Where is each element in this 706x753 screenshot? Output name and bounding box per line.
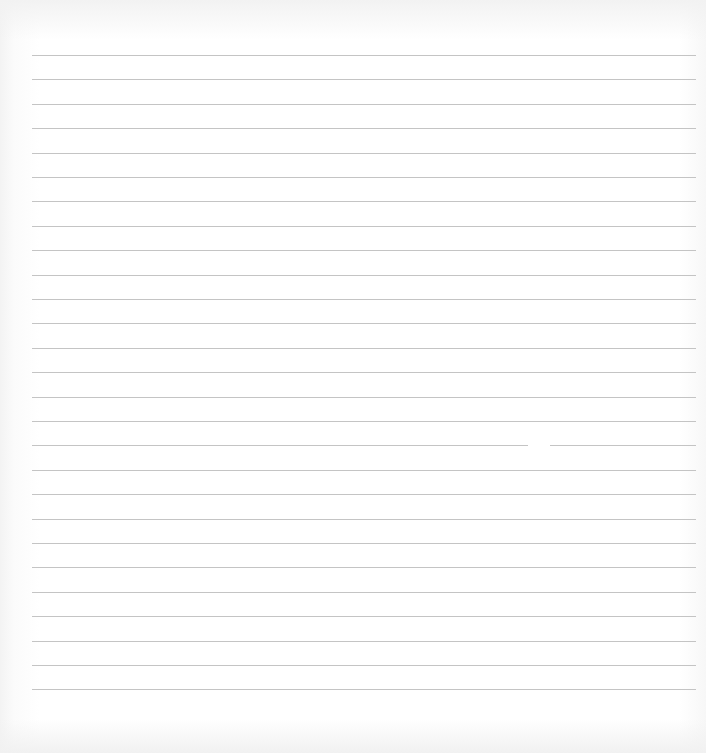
ruled-line — [32, 470, 696, 471]
ruled-line-gap — [528, 445, 550, 447]
ruled-line — [32, 494, 696, 495]
ruled-line — [32, 616, 696, 617]
ruled-line — [32, 250, 696, 251]
ruled-line — [32, 641, 696, 642]
ruled-line — [32, 543, 696, 544]
ruled-line — [32, 348, 696, 349]
ruled-line — [32, 567, 696, 568]
ruled-line — [32, 323, 696, 324]
ruled-line — [32, 519, 696, 520]
ruled-line — [32, 665, 696, 666]
ruled-line — [32, 445, 696, 446]
ruled-line — [32, 226, 696, 227]
ruled-line — [32, 592, 696, 593]
ruled-line — [32, 177, 696, 178]
ruled-line — [32, 372, 696, 373]
ruled-line — [32, 397, 696, 398]
ruled-line — [32, 104, 696, 105]
ruled-line — [32, 201, 696, 202]
lined-paper-sheet — [0, 0, 706, 753]
paper-top-shading — [0, 0, 706, 40]
paper-bottom-shading — [0, 719, 706, 753]
ruled-line — [32, 421, 696, 422]
ruled-line — [32, 79, 696, 80]
ruled-line — [32, 153, 696, 154]
ruled-line — [32, 299, 696, 300]
ruled-line — [32, 689, 696, 690]
ruled-line — [32, 128, 696, 129]
ruled-line — [32, 55, 696, 56]
ruled-line — [32, 275, 696, 276]
